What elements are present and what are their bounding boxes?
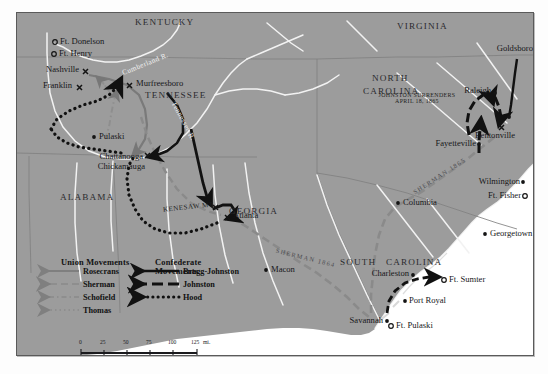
map-legend: Union Movements Confederate Movements	[43, 258, 243, 320]
state-label-south: SOUTH	[340, 258, 376, 267]
city-label-goldsboro: Goldsboro	[497, 44, 533, 53]
city-label-savannah: Savannah	[350, 316, 383, 325]
city-label-raleigh: Raleigh	[464, 86, 491, 95]
scale-tick-75: 75	[146, 339, 152, 345]
state-label-alabama: ALABAMA	[60, 193, 114, 202]
city-label-pulaski: Pulaski	[99, 132, 124, 141]
city-label-murfreesboro: Murfreesboro	[136, 79, 183, 88]
scale-tick-125: 125	[191, 339, 199, 345]
city-label-wilmington: Wilmington	[479, 177, 520, 186]
map-frame: KENTUCKY VIRGINIA TENNESSEE NORTH CAROLI…	[16, 12, 534, 356]
city-label-fayetteville: Fayetteville	[435, 139, 476, 148]
scale-tick-0: 0	[79, 339, 82, 345]
battle-cross	[83, 69, 88, 74]
city-label-georgetown: Georgetown	[490, 229, 532, 238]
city-dot	[477, 142, 481, 146]
city-label-macon: Macon	[271, 265, 295, 274]
fort-symbol	[389, 324, 394, 329]
fort-symbol	[523, 194, 528, 199]
scale-tick-25: 25	[100, 339, 106, 345]
city-label-nashville: Nashville	[46, 65, 79, 74]
battle-cross	[77, 85, 82, 90]
state-label-virginia: VIRGINIA	[397, 22, 448, 31]
city-dot	[521, 180, 525, 184]
city-dot	[507, 115, 511, 119]
city-label-charleston: Charleston	[372, 269, 409, 278]
battle-cross	[127, 83, 132, 88]
city-dot	[385, 319, 389, 323]
state-label-carolina-s: CAROLINA	[386, 258, 442, 267]
legend-label-thomas: Thomas	[83, 306, 111, 315]
legend-label-sherman: Sherman	[83, 280, 115, 289]
fort-label-ft-henry: Ft. Henry	[59, 49, 92, 58]
fort-label-ft-sumter: Ft. Sumter	[449, 275, 485, 284]
scale-unit: mi.	[203, 339, 210, 345]
fort-symbol	[442, 278, 447, 283]
battle-cross	[145, 153, 150, 158]
fort-label-ft-pulaski: Ft. Pulaski	[396, 321, 433, 330]
city-label-columbia: Columbia	[403, 198, 437, 207]
city-dot	[264, 268, 268, 272]
fort-label-ft-fisher: Ft. Fisher	[488, 191, 521, 200]
legend-label-schofield: Schofield	[83, 293, 115, 302]
legend-label-hood: Hood	[183, 293, 202, 302]
scale-tick-100: 100	[168, 339, 176, 345]
city-label-port-royal: Port Royal	[409, 296, 446, 305]
legend-label-rosecrans: Rosecrans	[83, 267, 119, 276]
city-label-chattanooga: Chattanooga	[100, 152, 143, 161]
city-dot	[483, 232, 487, 236]
scale-bar: 0 25 50 75 100 125 mi.	[79, 339, 205, 355]
city-dot	[411, 273, 415, 277]
legend-label-johnston: Johnston	[183, 280, 215, 289]
city-label-franklin: Franklin	[43, 81, 72, 90]
state-label-north: NORTH	[372, 74, 409, 83]
fort-symbol	[53, 40, 58, 45]
city-label-atlanta: Atlanta	[233, 211, 258, 220]
fort-label-ft-donelson: Ft. Donelson	[60, 37, 104, 46]
state-label-tennessee: TENNESSEE	[145, 91, 206, 100]
city-label-chickamauga: Chickamauga	[98, 162, 145, 171]
fort-symbol	[52, 52, 57, 57]
map-surface: KENTUCKY VIRGINIA TENNESSEE NORTH CAROLI…	[17, 13, 533, 355]
city-dot	[92, 135, 96, 139]
annotation-line-2: APRIL 18, 1865	[379, 99, 456, 105]
scale-bar-graphic	[79, 339, 205, 355]
city-dot	[493, 91, 497, 95]
legend-label-bragg-johnston: Bragg-Johnston	[183, 267, 239, 276]
city-dot	[396, 201, 400, 205]
state-label-kentucky: KENTUCKY	[135, 18, 194, 27]
scale-tick-50: 50	[123, 339, 129, 345]
city-label-bentonville: Bentonville	[475, 131, 515, 140]
map-page: KENTUCKY VIRGINIA TENNESSEE NORTH CAROLI…	[0, 0, 548, 374]
city-dot	[403, 299, 407, 303]
annotation-johnston-surrenders: JOHNSTON SURRENDERS APRIL 18, 1865	[379, 93, 456, 105]
